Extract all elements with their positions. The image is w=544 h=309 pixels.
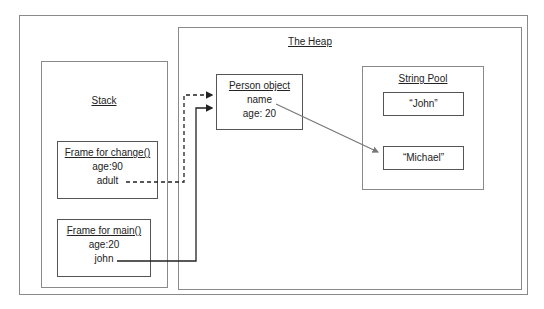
reference-arrows: [0, 0, 544, 309]
name-reference-arrow: [276, 104, 378, 152]
john-reference-arrow: [117, 108, 212, 261]
